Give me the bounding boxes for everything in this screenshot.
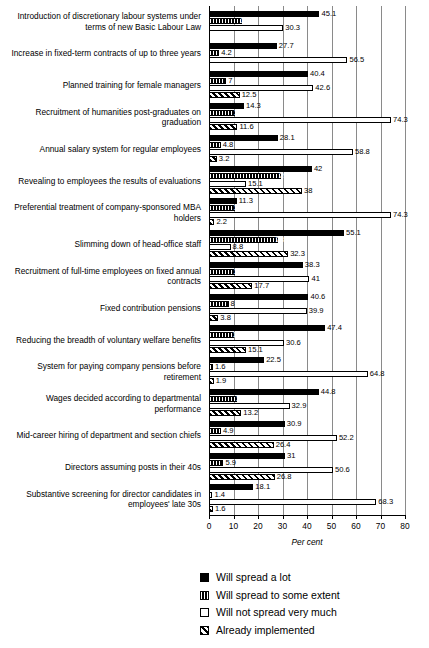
bar-value-label: 4.8 (223, 141, 234, 149)
legend-item: Will spread a lot (200, 572, 340, 583)
bar-value-label: 50.6 (335, 466, 350, 474)
legend-swatch-white-outline (200, 608, 209, 617)
bar-value-label: 3.8 (220, 314, 231, 322)
bars-panel: 45.113.530.327.74.256.540.4742.612.514.3… (209, 6, 405, 515)
bar-series-0 (209, 166, 312, 172)
bar-group: 315.950.626.8 (209, 451, 405, 483)
bar-group: 14.310.874.311.6 (209, 101, 405, 133)
bar-value-label: 5.9 (225, 459, 236, 467)
category-label: Recruitment of humanities post-graduates… (0, 101, 205, 133)
bar-value-label: 74.3 (393, 211, 408, 219)
legend-swatch-solid-black (200, 573, 209, 582)
bar-series-3 (209, 474, 275, 480)
bar-series-1 (209, 492, 212, 498)
chart-root: Introduction of discretionary labour sys… (0, 0, 429, 648)
bar-value-label: 15.1 (248, 346, 263, 354)
bar-value-label: 58.8 (355, 148, 370, 156)
x-tick (307, 515, 308, 519)
bar-value-label: 17.7 (254, 282, 269, 290)
bar-series-1 (209, 332, 234, 338)
bar-value-label: 29.3 (279, 172, 294, 180)
bar-series-3 (209, 124, 237, 130)
bar-value-label: 32.9 (292, 402, 307, 410)
category-label: Annual salary system for regular employe… (0, 133, 205, 165)
bar-series-3 (209, 506, 213, 512)
category-label-text: Preferential treatment of company-sponso… (0, 202, 201, 223)
bar-series-3 (209, 283, 252, 289)
bar-value-label: 10.8 (233, 109, 248, 117)
bar-series-2 (209, 467, 333, 473)
category-label-text: Wages decided according to departmental … (0, 393, 201, 414)
bar-value-label: 42 (314, 165, 322, 173)
category-label-text: Increase in fixed-term contracts of up t… (11, 48, 201, 59)
legend-label: Will spread to some extent (216, 590, 340, 601)
chart-legend: Will spread a lotWill spread to some ext… (200, 572, 340, 642)
bar-series-1 (209, 18, 242, 24)
bar-value-label: 1.9 (216, 377, 227, 385)
category-label-text: Introduction of discretionary labour sys… (0, 11, 201, 32)
bar-value-label: 4.2 (221, 49, 232, 57)
bar-value-label: 10.7 (233, 268, 248, 276)
bar-value-label: 7 (228, 77, 232, 85)
bar-series-3 (209, 156, 217, 162)
bar-value-label: 32.3 (290, 250, 305, 258)
bar-value-label: 26.8 (277, 473, 292, 481)
x-tick-label: 30 (271, 522, 295, 531)
category-label-text: Directors assuming posts in their 40s (65, 462, 201, 473)
bar-series-1 (209, 110, 235, 116)
bar-value-label: 18.1 (255, 483, 270, 491)
x-tick-label: 60 (344, 522, 368, 531)
x-tick (332, 515, 333, 519)
bar-series-1 (209, 142, 221, 148)
bar-value-label: 11.6 (239, 123, 253, 131)
category-label-text: System for paying company pensions befor… (0, 361, 201, 382)
category-label-text: Recruitment of humanities post-graduates… (0, 107, 201, 128)
bar-series-0 (209, 421, 285, 427)
bar-series-2 (209, 181, 246, 187)
category-label-text: Planned training for female managers (63, 80, 201, 91)
bar-series-3 (209, 188, 302, 194)
bar-series-2 (209, 117, 391, 123)
bar-series-2 (209, 85, 313, 91)
bar-series-3 (209, 347, 246, 353)
bar-value-label: 22.5 (266, 356, 281, 364)
bar-group: 22.51.664.81.9 (209, 356, 405, 388)
category-label-text: Substantive screening for director candi… (0, 489, 201, 510)
bar-value-label: 30.3 (285, 24, 300, 32)
plot-area: Introduction of discretionary labour sys… (0, 0, 429, 528)
bar-value-label: 28 (276, 236, 284, 244)
bar-series-2 (209, 149, 353, 155)
bar-series-3 (209, 251, 288, 257)
bar-group: 11.310.774.32.2 (209, 197, 405, 229)
x-tick (209, 515, 210, 519)
bar-value-label: 14.3 (246, 102, 261, 110)
bar-value-label: 44.8 (321, 388, 336, 396)
category-label: Increase in fixed-term contracts of up t… (0, 38, 205, 70)
category-label: Introduction of discretionary labour sys… (0, 6, 205, 38)
bar-value-label: 1.6 (215, 505, 226, 513)
bar-group: 4229.315.138 (209, 165, 405, 197)
bar-series-2 (209, 244, 231, 250)
bar-series-1 (209, 364, 213, 370)
category-label: Slimming down of head-office staff (0, 229, 205, 261)
bar-series-3 (209, 219, 214, 225)
bar-series-0 (209, 11, 319, 17)
bar-series-1 (209, 173, 281, 179)
category-label: Directors assuming posts in their 40s (0, 451, 205, 483)
bar-value-label: 11.6 (235, 395, 249, 403)
legend-label: Already implemented (216, 625, 315, 636)
category-label: Substantive screening for director candi… (0, 483, 205, 515)
bar-value-label: 74.3 (393, 116, 408, 124)
bar-value-label: 1.6 (215, 363, 226, 371)
legend-label: Will not spread very much (216, 607, 337, 618)
bar-value-label: 41 (311, 275, 319, 283)
bar-value-label: 55.1 (346, 229, 361, 237)
bar-value-label: 1.4 (214, 491, 225, 499)
bar-value-label: 38 (304, 187, 312, 195)
bar-group: 18.11.468.31.6 (209, 483, 405, 515)
bar-series-1 (209, 301, 229, 307)
bar-group: 38.310.74117.7 (209, 261, 405, 293)
bar-value-label: 12.5 (242, 91, 257, 99)
bar-group: 40.4742.612.5 (209, 70, 405, 102)
category-label: Wages decided according to departmental … (0, 388, 205, 420)
